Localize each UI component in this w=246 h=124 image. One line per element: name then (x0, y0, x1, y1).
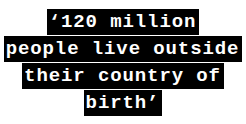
quote-line-3: their country of (22, 63, 224, 89)
quote-line-4: birth’ (84, 90, 163, 116)
pull-quote-graphic: ‘120 million people live outside their c… (0, 0, 246, 124)
quote-text-block: ‘120 million people live outside their c… (0, 9, 246, 116)
quote-line-1: ‘120 million (47, 9, 200, 35)
quote-line-2: people live outside (4, 36, 243, 62)
